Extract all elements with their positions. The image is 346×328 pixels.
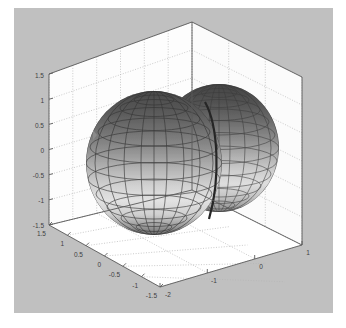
x-tick-label: -1: [211, 277, 217, 284]
y-tick-label: 1.5: [37, 230, 46, 237]
z-tick-label: -1: [38, 197, 44, 204]
y-tick-label: 1: [60, 240, 64, 247]
y-tick-label: -1.5: [146, 292, 158, 299]
z-tick-label: 0.5: [35, 122, 44, 129]
z-tick-label: -1.5: [33, 222, 45, 229]
matlab-figure-window: 1.5 1 0.5 0 -0.5 -1 -1.5 1.5 1 0.5 0 -0.…: [0, 0, 346, 328]
z-tick-label: 0: [40, 147, 44, 154]
y-tick-label: -0.5: [109, 271, 121, 278]
x-tick-label: -2: [165, 291, 171, 298]
y-tick-label: 0: [97, 261, 101, 268]
y-tick-label: -1: [132, 282, 138, 289]
x-tick-label: 1: [306, 249, 310, 256]
z-axis-tick-labels: 1.5 1 0.5 0 -0.5 -1 -1.5: [33, 72, 45, 229]
surface-sphere-front: [86, 91, 222, 235]
x-tick-label: 0: [259, 263, 263, 270]
z-tick-label: 1.5: [35, 72, 44, 79]
z-tick-label: 1: [40, 97, 44, 104]
y-tick-label: 0.5: [74, 251, 83, 258]
axes-3d-plot[interactable]: 1.5 1 0.5 0 -0.5 -1 -1.5 1.5 1 0.5 0 -0.…: [0, 0, 346, 328]
z-tick-label: -0.5: [33, 172, 45, 179]
